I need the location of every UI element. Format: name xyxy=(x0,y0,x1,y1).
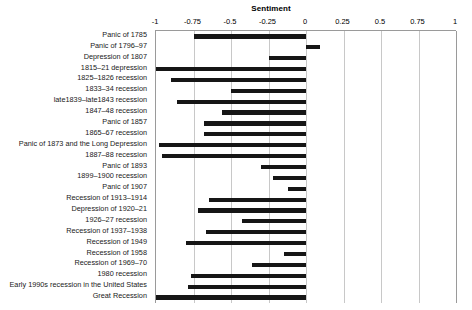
x-tick-label: -0.25 xyxy=(259,17,276,26)
bar xyxy=(209,198,307,202)
bar xyxy=(273,176,306,180)
bar-row xyxy=(156,140,456,151)
category-label: Recession of 1949 xyxy=(0,238,151,246)
bar-row xyxy=(156,216,456,227)
bar-row xyxy=(156,53,456,64)
x-tick-label: 0 xyxy=(303,17,307,26)
bar-row xyxy=(156,281,456,292)
category-label: Early 1990s recession in the United Stat… xyxy=(0,281,151,289)
bar xyxy=(198,208,306,212)
category-label: Recession of 1958 xyxy=(0,249,151,257)
bar-row xyxy=(156,31,456,42)
x-axis-tick-labels: -1-0.75-0.5-0.2500.250.50.751 xyxy=(155,17,455,28)
category-label: Recession of 1969–70 xyxy=(0,259,151,267)
bar-row xyxy=(156,205,456,216)
x-tick-label: -0.75 xyxy=(184,17,201,26)
bar-row xyxy=(156,107,456,118)
category-label: Recession of 1913–1914 xyxy=(0,194,151,202)
bar xyxy=(222,110,306,114)
category-label: 1815–21 depression xyxy=(0,64,151,72)
bar-row xyxy=(156,238,456,249)
bar xyxy=(186,241,306,245)
bar xyxy=(177,100,306,104)
bar xyxy=(162,154,306,158)
bar xyxy=(284,252,307,256)
x-tick-label: 0.25 xyxy=(335,17,350,26)
category-label: Panic of 1857 xyxy=(0,118,151,126)
bar xyxy=(288,187,306,191)
bar-row xyxy=(156,270,456,281)
bar xyxy=(156,295,306,299)
category-label: 1887–88 recession xyxy=(0,151,151,159)
bar xyxy=(261,165,306,169)
x-tick-label: 1 xyxy=(453,17,457,26)
bar xyxy=(206,230,307,234)
category-label: 1926–27 recession xyxy=(0,216,151,224)
category-label: 1833–34 recession xyxy=(0,85,151,93)
category-label: Panic of 1907 xyxy=(0,183,151,191)
category-label: Recession of 1937–1938 xyxy=(0,227,151,235)
bar-row xyxy=(156,96,456,107)
category-label: Depression of 1807 xyxy=(0,53,151,61)
bar xyxy=(204,132,306,136)
bar xyxy=(159,143,306,147)
category-label: Panic of 1893 xyxy=(0,162,151,170)
bar xyxy=(252,263,306,267)
bar-row xyxy=(156,292,456,303)
bar-row xyxy=(156,172,456,183)
category-label: Panic of 1785 xyxy=(0,31,151,39)
bar xyxy=(188,285,307,289)
category-label: Panic of 1796–97 xyxy=(0,42,151,50)
bar xyxy=(204,121,306,125)
plot-area xyxy=(155,30,456,303)
bar xyxy=(191,274,307,278)
bar xyxy=(306,45,320,49)
x-tick-label: 0.75 xyxy=(410,17,425,26)
category-label: 1847–48 recession xyxy=(0,107,151,115)
category-label: 1825–1826 recession xyxy=(0,74,151,82)
bar-row xyxy=(156,183,456,194)
bar-series xyxy=(156,31,456,303)
category-axis-labels: Panic of 1785Panic of 1796–97Depression … xyxy=(0,30,151,302)
bar xyxy=(231,89,306,93)
bar-row xyxy=(156,75,456,86)
bar xyxy=(171,78,306,82)
x-tick-label: -0.5 xyxy=(224,17,237,26)
bar-row xyxy=(156,194,456,205)
x-tick-label: 0.5 xyxy=(375,17,385,26)
bar xyxy=(156,67,306,71)
bar-row xyxy=(156,162,456,173)
bar xyxy=(269,56,307,60)
category-label: 1980 recession xyxy=(0,270,151,278)
bar xyxy=(194,34,307,38)
bar-row xyxy=(156,118,456,129)
category-label: late1839–late1843 recession xyxy=(0,96,151,104)
bar-row xyxy=(156,64,456,75)
x-tick-label: -1 xyxy=(152,17,159,26)
category-label: Depression of 1920–21 xyxy=(0,205,151,213)
bar-row xyxy=(156,85,456,96)
category-label: 1865–67 recession xyxy=(0,129,151,137)
category-label: 1899–1900 recession xyxy=(0,172,151,180)
gridline xyxy=(456,31,457,303)
bar-row xyxy=(156,151,456,162)
bar-row xyxy=(156,129,456,140)
bar-row xyxy=(156,42,456,53)
bar-row xyxy=(156,227,456,238)
bar-row xyxy=(156,259,456,270)
bar xyxy=(242,219,307,223)
bar-row xyxy=(156,249,456,260)
chart-title: Sentiment xyxy=(0,4,472,13)
sentiment-bar-chart: Sentiment -1-0.75-0.5-0.2500.250.50.751 … xyxy=(0,0,472,310)
category-label: Panic of 1873 and the Long Depression xyxy=(0,140,151,148)
category-label: Great Recession xyxy=(0,292,151,300)
